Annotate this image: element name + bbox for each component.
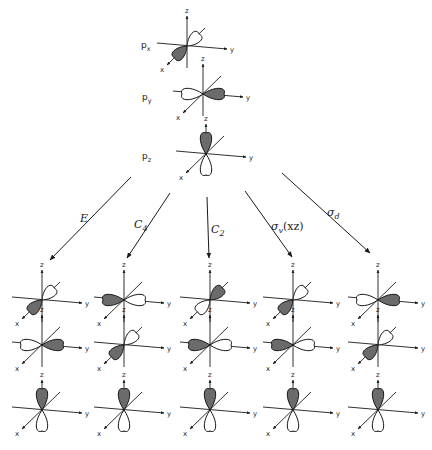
y-axis-label: y [253, 345, 257, 353]
z-axis-label: z [291, 371, 295, 379]
y-axis-label: y [85, 300, 89, 308]
y-axis [12, 407, 82, 413]
z-axis-label: z [291, 306, 295, 314]
operation-arrow-4 [282, 173, 370, 253]
result-orbital-col3-row0: yzx [263, 261, 340, 328]
y-axis [176, 151, 246, 157]
x-axis-label: x [351, 430, 355, 438]
operation-arrow-0 [50, 177, 131, 260]
y-axis-label: y [167, 410, 171, 418]
negative-lobe [182, 88, 203, 99]
source-orbital-px: yzx [157, 7, 234, 74]
x-axis-label: x [15, 430, 19, 438]
symmetry-operations: EC4C2σv(xz)σd [50, 173, 370, 260]
y-axis-label: y [421, 410, 425, 418]
x-axis-label: x [97, 365, 101, 373]
result-orbital-col0-row2: yzx [12, 371, 89, 438]
x-axis-label: x [351, 320, 355, 328]
z-axis-label: z [291, 261, 295, 269]
source-orbital-py: yzx [173, 55, 250, 122]
result-orbital-col0-row0: yzx [12, 261, 89, 328]
z-axis-label: z [204, 115, 208, 123]
y-axis [263, 407, 333, 413]
z-axis-label: z [376, 261, 380, 269]
x-axis-label: x [97, 430, 101, 438]
x-axis-label: x [183, 320, 187, 328]
x-axis-label: x [97, 320, 101, 328]
axes: yzx [12, 371, 89, 438]
y-axis-label: y [85, 345, 89, 353]
y-axis-label: y [167, 300, 171, 308]
negative-lobe [357, 294, 378, 305]
orbital-label-pz: pz [142, 151, 152, 164]
y-axis-label: y [336, 345, 340, 353]
z-axis-label: z [208, 261, 212, 269]
result-orbital-col3-row1: yzx [263, 306, 340, 373]
z-axis-label: z [40, 261, 44, 269]
y-axis [94, 407, 164, 413]
y-axis-label: y [167, 345, 171, 353]
x-axis-label: x [176, 114, 180, 122]
z-axis-label: z [208, 306, 212, 314]
y-axis-label: y [421, 345, 425, 353]
result-orbital-col1-row1: yzx [94, 306, 171, 373]
y-axis-label: y [246, 94, 250, 102]
x-axis-label: x [266, 365, 270, 373]
positive-lobe [200, 133, 211, 154]
positive-lobe [287, 389, 298, 410]
x-axis-label: x [183, 365, 187, 373]
negative-lobe [21, 339, 42, 350]
result-orbital-col2-row2: yzx [180, 371, 257, 438]
x-axis-label: x [351, 365, 355, 373]
result-orbital-col0-row1: yzx [12, 306, 89, 373]
operation-label-3: σv(xz) [271, 220, 304, 235]
y-axis-label: y [336, 410, 340, 418]
result-orbital-col2-row1: yzx [180, 306, 257, 373]
operation-label-0: E [79, 212, 88, 225]
result-orbital-col4-row2: yzx [348, 371, 425, 438]
z-axis-label: z [185, 7, 189, 15]
y-axis-label: y [249, 154, 253, 162]
source-orbital-pz: yzx [176, 115, 253, 182]
x-axis-label: x [15, 320, 19, 328]
positive-lobe [372, 389, 383, 410]
z-axis-label: z [122, 261, 126, 269]
positive-lobe [189, 339, 210, 350]
operation-label-1: C4 [134, 218, 147, 233]
positive-lobe [272, 339, 293, 350]
axes: yzx [176, 115, 253, 182]
positive-lobe [204, 389, 215, 410]
result-orbital-col1-row0: yzx [94, 261, 171, 328]
axes: yzx [94, 371, 171, 438]
character-table-transformation-diagram: yzxpxyzxpyyzxpz EC4C2σv(xz)σd yzxyzxyzxy… [0, 0, 432, 450]
orbital-label-px: px [141, 40, 151, 53]
y-axis-label: y [85, 410, 89, 418]
x-axis-label: x [266, 320, 270, 328]
x-axis-label: x [266, 430, 270, 438]
axes: yzx [348, 371, 425, 438]
operation-arrow-2 [207, 197, 209, 258]
result-orbital-col4-row0: yzx [348, 261, 425, 328]
y-axis-label: y [336, 300, 340, 308]
result-orbital-col2-row0: yzx [180, 261, 257, 328]
source-orbitals: yzxpxyzxpyyzxpz [141, 7, 253, 182]
transformed-orbitals: yzxyzxyzxyzxyzxyzxyzxyzxyzxyzxyzxyzxyzxy… [12, 261, 425, 438]
y-axis-label: y [253, 300, 257, 308]
positive-lobe [103, 294, 124, 305]
orbital-label-py: py [142, 92, 152, 105]
positive-lobe [36, 389, 47, 410]
y-axis-label: y [253, 410, 257, 418]
result-orbital-col4-row1: yzx [348, 306, 425, 373]
x-axis-label: x [183, 430, 187, 438]
z-axis-label: z [40, 306, 44, 314]
result-orbital-col1-row2: yzx [94, 371, 171, 438]
z-axis-label: z [201, 55, 205, 63]
result-orbital-col3-row2: yzx [263, 371, 340, 438]
axes: yzx [263, 371, 340, 438]
y-axis [348, 407, 418, 413]
x-axis-label: x [179, 174, 183, 182]
z-axis-label: z [376, 371, 380, 379]
operation-label-4: σd [327, 206, 340, 221]
z-axis-label: z [376, 306, 380, 314]
z-axis-label: z [122, 371, 126, 379]
